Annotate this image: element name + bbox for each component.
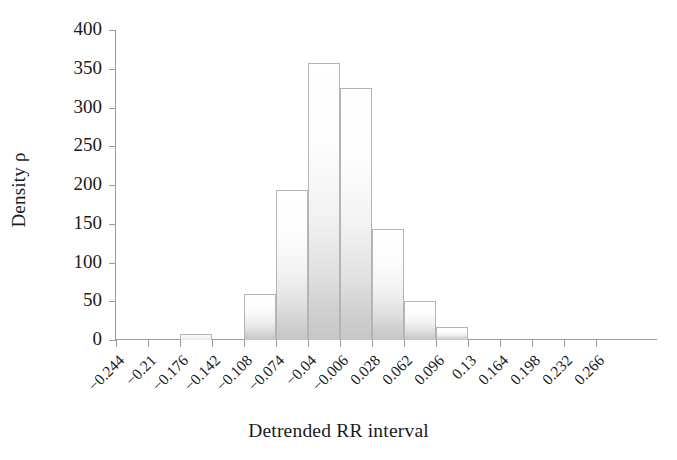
y-tick: 50 [109, 301, 116, 302]
histogram-bar [308, 63, 340, 340]
histogram-bar [244, 294, 276, 340]
x-tick [180, 340, 181, 347]
x-axis-title: Detrended RR interval [0, 420, 677, 442]
x-tick [308, 340, 309, 347]
y-tick: 400 [109, 30, 116, 31]
histogram-bar [436, 327, 468, 340]
y-tick: 350 [109, 69, 116, 70]
y-tick-label: 50 [83, 290, 102, 310]
histogram-bar [180, 334, 212, 340]
histogram-bar [404, 301, 436, 340]
x-tick [404, 340, 405, 347]
x-tick [436, 340, 437, 347]
x-tick [564, 340, 565, 347]
histogram-bar [372, 229, 404, 340]
y-tick-label: 100 [74, 252, 103, 272]
y-tick: 150 [109, 224, 116, 225]
y-tick: 250 [109, 146, 116, 147]
x-tick [276, 340, 277, 347]
y-tick-label: 150 [74, 213, 103, 233]
x-tick [500, 340, 501, 347]
y-tick: 100 [109, 263, 116, 264]
y-tick-label: 250 [74, 135, 103, 155]
y-tick-label: 350 [74, 58, 103, 78]
histogram-bar [340, 88, 372, 340]
x-tick [532, 340, 533, 347]
y-tick-label: 0 [93, 329, 103, 349]
histogram-figure: Density ρ 050100150200250300350400 −0.24… [0, 0, 677, 460]
y-tick-label: 200 [74, 174, 103, 194]
y-tick: 200 [109, 185, 116, 186]
x-tick [212, 340, 213, 347]
x-tick [116, 340, 117, 347]
histogram-bar [276, 190, 308, 340]
y-axis-title: Density ρ [8, 120, 30, 260]
y-tick-label: 400 [74, 19, 103, 39]
x-tick [244, 340, 245, 347]
x-tick [148, 340, 149, 347]
x-tick [468, 340, 469, 347]
y-tick: 0 [109, 340, 116, 341]
x-tick [372, 340, 373, 347]
y-tick-label: 300 [74, 97, 103, 117]
plot-area: 050100150200250300350400 [116, 30, 657, 340]
x-tick [596, 340, 597, 347]
y-tick: 300 [109, 108, 116, 109]
x-tick [340, 340, 341, 347]
